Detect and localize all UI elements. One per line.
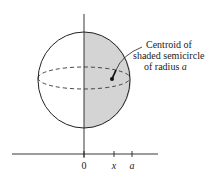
tick-label-a: a bbox=[130, 160, 135, 171]
tick-label-0: 0 bbox=[82, 160, 87, 171]
annotation-line-2: shaded semicircle bbox=[133, 50, 205, 61]
shaded-semicircle bbox=[84, 32, 131, 128]
annotation-line-1: Centroid of bbox=[146, 39, 192, 50]
annotation-line-3-prefix: of radius bbox=[144, 61, 182, 72]
annotation-line-3: of radius a bbox=[144, 61, 187, 72]
annotation-radius-var: a bbox=[182, 61, 187, 72]
sphere-diagram: Centroid of shaded semicircle of radius … bbox=[0, 0, 222, 181]
tick-label-x: x bbox=[111, 160, 117, 171]
